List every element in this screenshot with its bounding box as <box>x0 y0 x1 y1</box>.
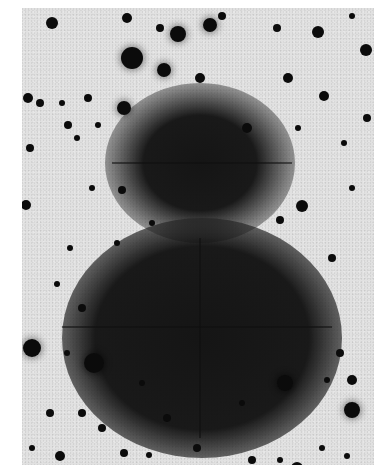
star <box>347 375 357 385</box>
star <box>324 377 330 383</box>
star <box>157 63 171 77</box>
star <box>149 220 155 226</box>
star <box>139 380 145 386</box>
star <box>84 94 92 102</box>
star <box>344 453 350 459</box>
star <box>349 13 355 19</box>
star <box>114 240 120 246</box>
star <box>239 400 245 406</box>
star <box>341 140 347 146</box>
star <box>273 24 281 32</box>
star <box>363 114 371 122</box>
star <box>46 409 54 417</box>
star <box>118 186 126 194</box>
star <box>328 254 336 262</box>
star <box>336 349 344 357</box>
diffraction-spike <box>62 326 332 328</box>
star <box>242 123 252 133</box>
star <box>46 17 58 29</box>
star <box>319 445 325 451</box>
star <box>295 125 301 131</box>
star <box>276 216 284 224</box>
diffraction-spike <box>112 162 292 164</box>
star <box>163 414 171 422</box>
star <box>360 44 372 56</box>
star <box>203 18 217 32</box>
star <box>312 26 324 38</box>
star <box>319 91 329 101</box>
star <box>54 281 60 287</box>
star <box>64 121 72 129</box>
star <box>78 409 86 417</box>
star <box>156 24 164 32</box>
star <box>89 185 95 191</box>
star <box>29 445 35 451</box>
star <box>170 26 186 42</box>
diffraction-spike <box>199 238 201 438</box>
star <box>55 451 65 461</box>
star <box>296 200 308 212</box>
star <box>84 353 104 373</box>
star <box>277 375 293 391</box>
star <box>117 101 131 115</box>
star <box>36 99 44 107</box>
star <box>23 93 33 103</box>
star <box>277 457 283 463</box>
astronomical-plate <box>22 8 374 465</box>
star <box>146 452 152 458</box>
star <box>248 456 256 464</box>
lower-glow <box>62 218 342 458</box>
star <box>67 245 73 251</box>
star <box>122 13 132 23</box>
star <box>23 339 41 357</box>
star <box>193 444 201 452</box>
star <box>349 185 355 191</box>
star <box>120 449 128 457</box>
star <box>78 304 86 312</box>
star <box>218 12 226 20</box>
star <box>74 135 80 141</box>
star <box>121 47 143 69</box>
star <box>283 73 293 83</box>
star <box>95 122 101 128</box>
star <box>64 350 70 356</box>
star <box>195 73 205 83</box>
star <box>26 144 34 152</box>
star <box>98 424 106 432</box>
star <box>344 402 360 418</box>
star <box>59 100 65 106</box>
